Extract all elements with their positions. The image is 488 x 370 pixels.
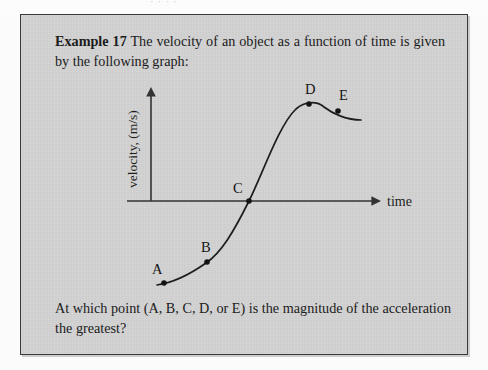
example-question: At which point (A, B, C, D, or E) is the… bbox=[55, 298, 451, 338]
point-dot-B bbox=[204, 259, 210, 265]
x-axis-label: time bbox=[387, 194, 412, 209]
curve-point-A: A bbox=[152, 261, 167, 286]
example-box: Example 17 The velocity of an object as … bbox=[20, 14, 468, 355]
graph-svg: velocity, (m/s) time A B C D bbox=[21, 63, 469, 301]
point-dot-A bbox=[161, 280, 167, 286]
point-dot-C bbox=[246, 198, 252, 204]
page-bleed-top: · · · · bbox=[0, 0, 488, 14]
y-axis-label: velocity, (m/s) bbox=[125, 110, 140, 188]
curve-point-E: E bbox=[335, 87, 348, 114]
point-label-D: D bbox=[305, 81, 315, 97]
page-bleed-text: · · · · bbox=[150, 0, 400, 7]
curve-point-B: B bbox=[201, 239, 211, 265]
velocity-curve bbox=[157, 103, 361, 285]
point-label-E: E bbox=[339, 87, 348, 103]
point-label-A: A bbox=[152, 261, 163, 277]
point-label-C: C bbox=[233, 180, 243, 196]
point-dot-E bbox=[335, 108, 341, 114]
point-dot-D bbox=[306, 101, 312, 107]
example-label: Example 17 bbox=[55, 33, 127, 49]
velocity-time-graph: velocity, (m/s) time A B C D bbox=[21, 63, 469, 301]
point-label-B: B bbox=[201, 239, 211, 255]
